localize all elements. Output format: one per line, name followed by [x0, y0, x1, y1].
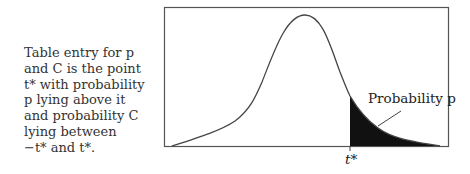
figure-frame — [165, 8, 449, 147]
leader-line — [378, 111, 401, 126]
probability-label: Probability p — [368, 90, 456, 106]
t-star-label: t* — [345, 151, 357, 167]
density-curve — [172, 15, 440, 146]
density-figure: Probability p t* — [0, 0, 470, 174]
